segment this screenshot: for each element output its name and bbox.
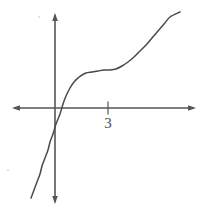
x-axis-tick-label-3: 3	[100, 116, 116, 131]
scan-speck-top	[38, 16, 40, 18]
x-axis-left-arrowhead	[12, 105, 20, 111]
y-axis-top-arrowhead	[52, 13, 58, 21]
graph-figure: 3	[0, 0, 205, 211]
x-axis-right-arrowhead	[188, 105, 196, 111]
coordinate-plane-svg	[0, 0, 205, 211]
y-axis-bottom-arrowhead	[52, 196, 58, 204]
cubic-function-curve	[31, 12, 180, 198]
scan-speck-left	[7, 169, 9, 171]
